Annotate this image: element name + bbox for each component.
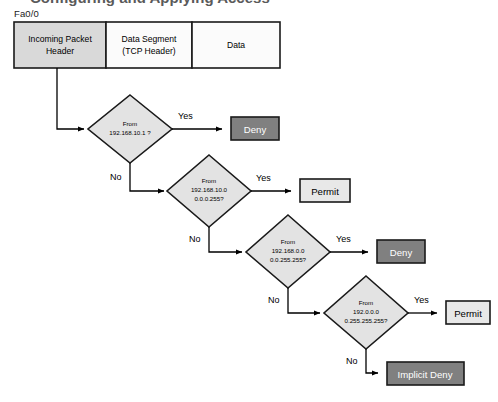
flowchart-canvas: Incoming Packet Header Data Segment (TCP… bbox=[0, 0, 498, 402]
terminal-node-deny-1: Deny bbox=[231, 117, 279, 140]
cropped-heading-text: Configuring and Applying Access bbox=[30, 0, 270, 6]
decision-2-yes-label: Yes bbox=[256, 173, 271, 183]
packet-segment-label-2-line1: Data bbox=[227, 40, 245, 50]
connector-header-to-decision-1 bbox=[57, 68, 84, 129]
decision-4-yes-label: Yes bbox=[414, 295, 429, 305]
decision-2-line2: 192.168.10.0 bbox=[191, 186, 228, 193]
decision-3-line3: 0.0.255.255? bbox=[270, 256, 307, 263]
decision-2-line1: From bbox=[202, 177, 216, 184]
cropped-page-heading: Configuring and Applying Access bbox=[0, 0, 498, 7]
terminal-node-deny-2: Deny bbox=[377, 240, 425, 263]
connector-decision-2-no bbox=[209, 227, 242, 252]
decision-node-4: From 192.0.0.0 0.255.255.255? bbox=[324, 276, 408, 349]
decision-3-no-label: No bbox=[268, 295, 280, 305]
decision-1-no-label: No bbox=[110, 172, 122, 182]
packet-strip: Incoming Packet Header Data Segment (TCP… bbox=[14, 22, 280, 68]
decision-2-line3: 0.0.0.255? bbox=[194, 195, 224, 202]
terminal-label-deny-2: Deny bbox=[390, 247, 413, 258]
terminal-label-permit-1: Permit bbox=[311, 186, 339, 197]
decision-4-line1: From bbox=[359, 299, 373, 306]
decision-3-yes-label: Yes bbox=[336, 234, 351, 244]
terminal-node-implicit-deny: Implicit Deny bbox=[387, 362, 464, 385]
connector-decision-4-no bbox=[366, 349, 378, 373]
decision-1-line2: 192.168.10.1 ? bbox=[109, 129, 151, 136]
packet-segment-box-1 bbox=[106, 22, 192, 68]
decision-3-line2: 192.168.0.0 bbox=[272, 247, 305, 254]
decision-2-no-label: No bbox=[189, 234, 201, 244]
decision-4-line3: 0.255.255.255? bbox=[344, 317, 388, 324]
decision-node-1: From 192.168.10.1 ? bbox=[88, 95, 172, 163]
interface-label: Fa0/0 bbox=[14, 8, 39, 19]
packet-segment-label-1-line1: Data Segment bbox=[122, 34, 178, 44]
decision-4-no-label: No bbox=[346, 356, 358, 366]
packet-segment-label-0-line1: Incoming Packet bbox=[28, 34, 92, 44]
connector-decision-1-no bbox=[130, 163, 164, 191]
packet-segment-box-0 bbox=[14, 22, 106, 68]
terminal-label-deny-1: Deny bbox=[244, 124, 267, 135]
terminal-label-permit-2: Permit bbox=[454, 308, 482, 319]
decision-node-3: From 192.168.0.0 0.0.255.255? bbox=[246, 215, 330, 288]
decision-node-2: From 192.168.10.0 0.0.0.255? bbox=[167, 155, 251, 227]
terminal-label-implicit-deny: Implicit Deny bbox=[398, 369, 453, 380]
packet-segment-label-0-line2: Header bbox=[46, 46, 74, 56]
decision-1-line1: From bbox=[123, 120, 137, 127]
acl-flowchart-diagram: Configuring and Applying Access Fa0/0 In… bbox=[0, 0, 498, 402]
decision-4-line2: 192.0.0.0 bbox=[353, 308, 379, 315]
decision-1-yes-label: Yes bbox=[178, 111, 193, 121]
terminal-node-permit-1: Permit bbox=[300, 179, 350, 202]
connector-decision-3-no bbox=[288, 288, 320, 313]
packet-segment-label-1-line2: (TCP Header) bbox=[122, 46, 175, 56]
decision-3-line1: From bbox=[281, 238, 295, 245]
terminal-node-permit-2: Permit bbox=[446, 301, 490, 324]
